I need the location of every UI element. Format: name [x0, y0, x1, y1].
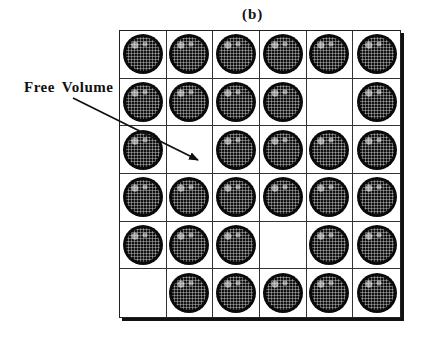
particle-icon — [357, 130, 397, 170]
particle-icon — [216, 34, 256, 74]
occupied-cell — [307, 31, 354, 79]
occupied-cell — [167, 222, 214, 270]
particle-icon — [263, 177, 303, 217]
occupied-cell — [353, 269, 400, 317]
occupied-cell — [307, 174, 354, 222]
occupied-cell — [167, 269, 214, 317]
particle-icon — [216, 177, 256, 217]
particle-icon — [263, 34, 303, 74]
particle-icon — [123, 130, 163, 170]
occupied-cell — [213, 174, 260, 222]
particle-icon — [216, 273, 256, 313]
free-volume-cell — [260, 222, 307, 270]
free-volume-cell — [307, 79, 354, 127]
free-volume-cell — [167, 126, 214, 174]
occupied-cell — [213, 31, 260, 79]
occupied-cell — [307, 222, 354, 270]
occupied-cell — [120, 222, 167, 270]
occupied-cell — [353, 126, 400, 174]
occupied-cell — [307, 269, 354, 317]
particle-icon — [263, 273, 303, 313]
panel-label: (b) — [242, 6, 263, 23]
particle-icon — [169, 225, 209, 265]
particle-icon — [216, 225, 256, 265]
occupied-cell — [260, 174, 307, 222]
particle-icon — [123, 34, 163, 74]
particle-icon — [263, 82, 303, 122]
occupied-cell — [260, 79, 307, 127]
occupied-cell — [213, 126, 260, 174]
particle-icon — [357, 34, 397, 74]
occupied-cell — [260, 126, 307, 174]
occupied-cell — [213, 222, 260, 270]
particle-icon — [169, 177, 209, 217]
occupied-cell — [120, 126, 167, 174]
particle-icon — [309, 34, 349, 74]
occupied-cell — [120, 174, 167, 222]
occupied-cell — [260, 31, 307, 79]
particle-icon — [263, 130, 303, 170]
occupied-cell — [167, 174, 214, 222]
occupied-cell — [213, 269, 260, 317]
particle-icon — [216, 82, 256, 122]
particle-icon — [123, 225, 163, 265]
particle-icon — [169, 34, 209, 74]
occupied-cell — [167, 31, 214, 79]
particle-icon — [309, 225, 349, 265]
particle-icon — [357, 225, 397, 265]
particle-icon — [169, 273, 209, 313]
occupied-cell — [260, 269, 307, 317]
occupied-cell — [353, 79, 400, 127]
particle-icon — [309, 177, 349, 217]
particle-icon — [123, 82, 163, 122]
occupied-cell — [213, 79, 260, 127]
lattice-grid — [119, 30, 401, 318]
free-volume-label: Free Volume — [24, 79, 113, 96]
particle-icon — [357, 177, 397, 217]
particle-icon — [216, 130, 256, 170]
particle-icon — [357, 273, 397, 313]
occupied-cell — [307, 126, 354, 174]
particle-icon — [309, 273, 349, 313]
free-volume-cell — [120, 269, 167, 317]
occupied-cell — [353, 31, 400, 79]
particle-icon — [169, 82, 209, 122]
particle-icon — [357, 82, 397, 122]
particle-icon — [123, 177, 163, 217]
occupied-cell — [353, 174, 400, 222]
occupied-cell — [353, 222, 400, 270]
occupied-cell — [120, 31, 167, 79]
occupied-cell — [120, 79, 167, 127]
occupied-cell — [167, 79, 214, 127]
particle-icon — [309, 130, 349, 170]
